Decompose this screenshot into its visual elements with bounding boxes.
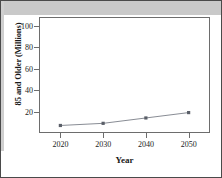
y-tick-label: 100 [11,21,33,30]
top-gray-band [1,1,222,15]
y-tick-label: 40 [11,86,33,95]
left-gray-band [1,1,4,151]
x-tick-label: 2020 [40,140,80,149]
y-tick-mark [34,69,39,70]
y-tick-label: 20 [11,107,33,116]
x-tick-label: 2050 [169,140,209,149]
x-axis-title: Year [39,155,210,165]
chart-figure: 85 and Older (Millions) 20406080100 2020… [0,0,222,178]
x-tick-mark [103,133,104,138]
plot-area [39,17,210,133]
y-tick-mark [34,26,39,27]
x-tick-label: 2040 [126,140,166,149]
x-tick-label: 2030 [83,140,123,149]
x-tick-mark [146,133,147,138]
y-tick-mark [34,47,39,48]
y-tick-mark [34,90,39,91]
x-tick-mark [189,133,190,138]
y-tick-label: 80 [11,43,33,52]
x-tick-mark [60,133,61,138]
y-tick-label: 60 [11,64,33,73]
y-tick-mark [34,112,39,113]
